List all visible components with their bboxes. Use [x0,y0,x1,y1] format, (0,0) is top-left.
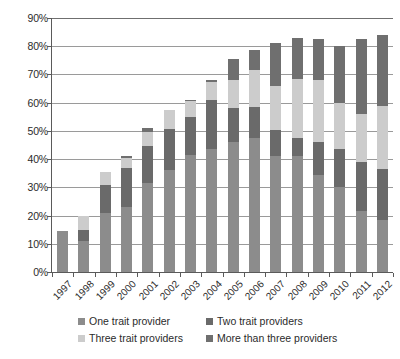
bar-segment [377,35,388,106]
x-tick-mark-2000 [116,273,117,277]
bar-stack-1999 [100,172,111,272]
legend-item-more-than-three-providers: More than three providers [206,333,337,344]
bar-segment [377,169,388,220]
legend-label-three-trait-providers: Three trait providers [89,333,183,344]
bar-segment [292,38,303,79]
bar-group-2006[interactable] [249,18,260,272]
bar-segment [100,185,111,213]
bar-group-2002[interactable] [164,18,175,272]
x-tick-mark-1997 [52,273,53,277]
bar-segment [185,117,196,155]
y-tick-label-50%: 50% [8,126,48,136]
bar-segment [206,100,217,149]
bar-group-2008[interactable] [292,18,303,272]
bar-stack-2009 [313,39,324,272]
bar-stack-2000 [121,156,132,272]
legend-label-two-trait-providers: Two trait providers [217,316,303,327]
bar-group-2012[interactable] [377,18,388,272]
bar-group-2007[interactable] [270,18,281,272]
bar-group-2004[interactable] [206,18,217,272]
bar-stack-2010 [334,46,345,272]
bar-segment [292,138,303,156]
bar-stack-2006 [249,50,260,272]
bar-group-2010[interactable] [334,18,345,272]
bar-stack-2005 [228,59,239,272]
y-tick-label-0%: 0% [8,267,48,277]
bar-segment [228,108,239,142]
x-tick-mark-2002 [159,273,160,277]
x-tick-mark-2004 [201,273,202,277]
bar-group-2003[interactable] [185,18,196,272]
bar-segment [356,162,367,211]
bar-group-2009[interactable] [313,18,324,272]
bar-segment [249,138,260,272]
bar-segment [228,142,239,272]
bar-segment [334,103,345,150]
bar-group-2005[interactable] [228,18,239,272]
bar-segment [334,149,345,187]
bar-segment [164,129,175,170]
y-tick-mark-70% [47,74,52,75]
bar-group-2001[interactable] [142,18,153,272]
y-tick-mark-90% [47,18,52,19]
y-tick-label-60%: 60% [8,98,48,108]
bar-segment [292,156,303,272]
legend-item-three-trait-providers: Three trait providers [78,333,183,344]
bar-segment [313,175,324,272]
bar-group-2000[interactable] [121,18,132,272]
y-tick-mark-10% [47,244,52,245]
legend-label-more-than-three-providers: More than three providers [217,333,337,344]
x-tick-mark-2012 [372,273,373,277]
bar-segment [185,101,196,117]
x-tick-mark-2011 [350,273,351,277]
bar-segment [100,172,111,185]
bar-segment [57,231,68,272]
bar-segment [142,183,153,272]
y-tick-mark-30% [47,187,52,188]
bar-group-1998[interactable] [78,18,89,272]
bar-stack-2008 [292,38,303,272]
x-tick-mark-2010 [329,273,330,277]
bar-stack-2012 [377,35,388,272]
y-tick-label-80%: 80% [8,41,48,51]
bar-segment [270,130,281,157]
x-tick-mark-2008 [286,273,287,277]
bar-segment [270,43,281,85]
bar-stack-2001 [142,128,153,272]
bar-segment [313,39,324,80]
x-tick-mark-2005 [223,273,224,277]
bar-segment [356,39,367,114]
bar-group-2011[interactable] [356,18,367,272]
bar-segment [356,114,367,162]
bar-segment [356,211,367,272]
bar-stack-2007 [270,43,281,272]
bar-segment [270,86,281,130]
bar-segment [100,213,111,272]
bar-segment [78,216,89,230]
x-tick-mark-2007 [265,273,266,277]
legend-swatch-two-trait-providers [206,318,213,325]
bar-segment [206,82,217,100]
bar-segment [121,168,132,208]
x-tick-mark-2006 [244,273,245,277]
stacked-bar-chart: 1997199819992000200120022003200420052006… [0,0,400,359]
x-tick-mark-1999 [95,273,96,277]
y-tick-mark-60% [47,103,52,104]
bar-segment [142,146,153,183]
bar-segment [121,207,132,272]
chart-legend: One trait provider Two trait providers T… [78,316,378,350]
bar-segment [249,50,260,70]
bar-group-1997[interactable] [57,18,68,272]
bar-group-1999[interactable] [100,18,111,272]
y-tick-label-90%: 90% [8,13,48,23]
bar-segment [164,170,175,272]
bar-segment [292,79,303,138]
bar-segment [121,158,132,168]
bar-stack-2003 [185,100,196,272]
x-tick-mark-2003 [180,273,181,277]
bar-stack-1998 [78,216,89,272]
bar-segment [228,80,239,108]
y-tick-label-70%: 70% [8,69,48,79]
y-tick-label-10%: 10% [8,239,48,249]
bar-segment [142,132,153,146]
